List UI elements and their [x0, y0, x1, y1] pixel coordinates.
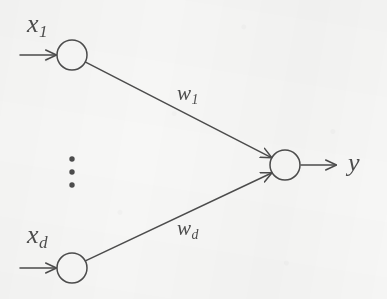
label-weight-d-subscript: d [192, 227, 199, 242]
label-weight-1-subscript: 1 [192, 92, 199, 107]
diagram-canvas [0, 0, 387, 299]
label-weight-1-base: w [177, 81, 191, 105]
label-input-d-subscript: d [39, 233, 48, 252]
label-weight-1: w1 [177, 83, 198, 107]
label-input-d-base: x [27, 220, 39, 249]
node-output [270, 150, 300, 180]
label-input-1: x1 [27, 11, 48, 41]
label-input-1-subscript: 1 [39, 22, 48, 41]
node-input-1 [57, 40, 87, 70]
neural-network-figure: x1 xd w1 wd y [0, 0, 387, 299]
edge-w1 [86, 62, 272, 157]
label-output: y [348, 150, 360, 180]
label-weight-d-base: w [177, 216, 191, 240]
label-input-1-base: x [27, 9, 39, 38]
vertical-ellipsis-icon [69, 156, 74, 187]
label-weight-d: wd [177, 218, 198, 242]
node-input-d [57, 253, 87, 283]
label-output-base: y [348, 148, 360, 177]
label-input-d: xd [27, 222, 48, 252]
